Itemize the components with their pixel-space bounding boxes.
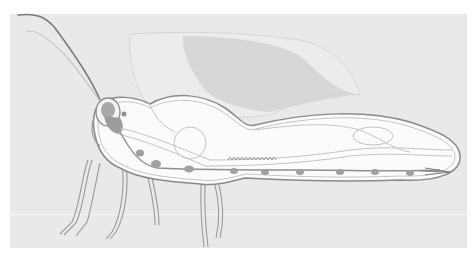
antennae <box>18 14 102 104</box>
insect-anatomy-illustration <box>0 0 476 261</box>
